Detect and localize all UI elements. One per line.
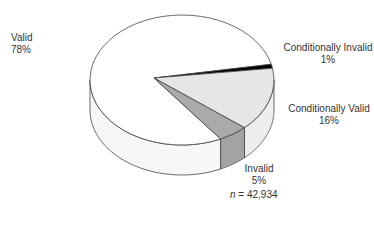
label-conditionally-valid: Conditionally Valid 16% [284,103,374,127]
label-conditionally-invalid: Conditionally Invalid 1% [278,42,374,66]
label-valid-name: Valid [11,32,33,44]
label-invalid: Invalid 5% [234,163,284,187]
label-invalid-pct: 5% [234,175,284,187]
label-conditionally-valid-name: Conditionally Valid [284,103,374,115]
sample-size-label: n = 42,934 [230,189,278,200]
label-valid: Valid 78% [11,32,33,56]
label-valid-pct: 78% [11,44,33,56]
label-conditionally-invalid-pct: 1% [278,54,374,66]
label-invalid-name: Invalid [234,163,284,175]
n-value: = 42,934 [236,189,278,200]
label-conditionally-invalid-name: Conditionally Invalid [278,42,374,54]
label-conditionally-valid-pct: 16% [284,115,374,127]
